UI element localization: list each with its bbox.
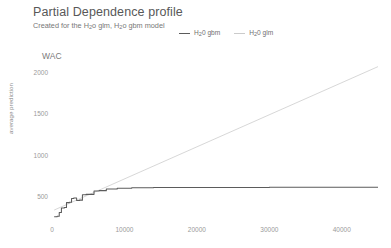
series-line-glm <box>54 67 378 210</box>
chart-plot-area <box>0 0 391 248</box>
series-line-gbm <box>54 187 378 216</box>
partial-dependence-chart: Partial Dependence profile Created for t… <box>0 0 391 248</box>
